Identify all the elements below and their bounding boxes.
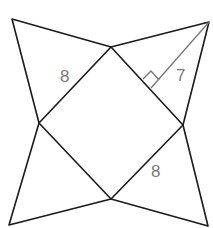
pyramid-net-diagram: 8 7 8 xyxy=(0,0,213,228)
right-angle-marker xyxy=(143,71,159,80)
triangle-face-bottom-left xyxy=(9,123,111,225)
label-slant-height: 7 xyxy=(176,66,185,85)
label-base-side-bottom: 8 xyxy=(151,162,160,181)
label-base-side: 8 xyxy=(60,67,69,86)
triangle-face-top-right xyxy=(111,22,209,125)
